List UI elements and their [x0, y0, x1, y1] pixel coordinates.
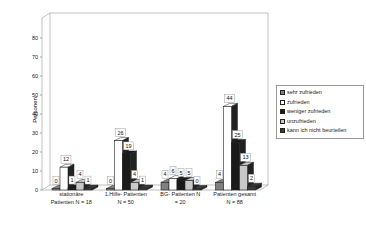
legend-swatch-icon: [280, 109, 285, 114]
legend-label: weniger zufrieden: [287, 107, 330, 117]
x-tick-label: BG- Patienten N: [160, 191, 200, 197]
bar: 2: [248, 174, 262, 190]
data-label: 44: [226, 95, 232, 101]
data-label: 12: [63, 156, 69, 162]
data-label: 0: [109, 178, 112, 184]
x-axis-labels: stationärePatienten N = 181.Hilfe- Patie…: [51, 191, 257, 205]
data-label: 1: [86, 177, 89, 183]
legend-item: kann ich nicht beurteilen: [280, 126, 360, 136]
y-axis-label: Personen: [32, 97, 38, 123]
data-label: 2: [250, 175, 253, 181]
bar: 0: [193, 177, 207, 191]
data-label: 4: [163, 171, 166, 177]
data-label: 5: [187, 170, 190, 176]
data-label: 19: [125, 143, 131, 149]
legend-label: unzufrieden: [287, 117, 316, 127]
data-label: 4: [218, 171, 221, 177]
svg-text:80: 80: [32, 35, 38, 41]
x-tick-label: N = 50: [118, 199, 134, 205]
data-label: 0: [54, 178, 57, 184]
legend-label: zufrieden: [287, 98, 310, 108]
legend-swatch-icon: [280, 100, 285, 105]
legend-item: weniger zufrieden: [280, 107, 360, 117]
legend: sehr zufriedenzufriedenweniger zufrieden…: [276, 85, 364, 139]
data-label: 6: [171, 168, 174, 174]
legend-label: kann ich nicht beurteilen: [287, 126, 346, 136]
data-label: 13: [242, 154, 248, 160]
legend-swatch-icon: [280, 128, 285, 133]
data-label: 4: [133, 171, 136, 177]
x-tick-label: Patienten N = 18: [51, 199, 92, 205]
data-label: 4: [78, 171, 81, 177]
data-label: 1: [141, 177, 144, 183]
legend-item: sehr zufrieden: [280, 88, 360, 98]
svg-text:70: 70: [32, 54, 38, 60]
legend-item: zufrieden: [280, 98, 360, 108]
svg-text:10: 10: [32, 168, 38, 174]
legend-swatch-icon: [280, 90, 285, 95]
bar: 1: [84, 176, 98, 190]
x-tick-label: N = 88: [227, 199, 243, 205]
x-tick-label: = 20: [175, 199, 186, 205]
data-label: 25: [234, 132, 240, 138]
data-label: 1: [70, 177, 73, 183]
svg-text:30: 30: [32, 130, 38, 136]
svg-text:0: 0: [35, 187, 38, 193]
svg-text:60: 60: [32, 73, 38, 79]
x-tick-label: stationäre: [59, 191, 83, 197]
bar: 12: [60, 155, 74, 190]
data-label: 26: [117, 130, 123, 136]
legend-swatch-icon: [280, 119, 285, 124]
x-tick-label: Patienten gesamt: [213, 191, 256, 197]
bar: 1: [139, 176, 153, 190]
bar-series: 01214102619414655044425132: [52, 94, 262, 190]
data-label: 5: [179, 170, 182, 176]
svg-text:50: 50: [32, 92, 38, 98]
svg-text:20: 20: [32, 149, 38, 155]
x-tick-label: 1.Hilfe- Patienten: [105, 191, 147, 197]
legend-label: sehr zufrieden: [287, 88, 322, 98]
legend-item: unzufrieden: [280, 117, 360, 127]
data-label: 0: [195, 178, 198, 184]
